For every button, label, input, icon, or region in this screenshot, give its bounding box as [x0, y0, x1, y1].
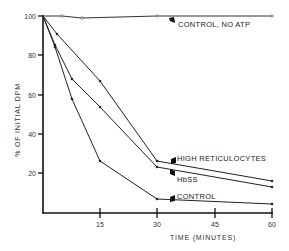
x-axis-label: TIME (MINUTES) — [170, 234, 236, 242]
x-tick-15: 15 — [96, 221, 104, 228]
label-high-reticulocytes: HIGH RETICULOCYTES — [177, 154, 266, 163]
label-hbss: HbSS — [177, 175, 198, 184]
x-ticks: 15 30 45 60 — [96, 208, 276, 228]
chart: 100 80 60 40 20 15 30 45 60 TIME (MINUTE… — [0, 0, 289, 251]
label-control-no-atp: CONTROL, NO ATP — [178, 20, 250, 29]
label-control: CONTROL — [177, 192, 216, 201]
y-tick-40: 40 — [28, 131, 36, 138]
series-high-reticulocytes: HIGH RETICULOCYTES — [43, 16, 273, 182]
x-tick-30: 30 — [153, 221, 161, 228]
series-control: CONTROL — [43, 16, 273, 205]
y-tick-20: 20 — [28, 170, 36, 177]
y-ticks: 100 80 60 40 20 — [24, 13, 43, 177]
y-tick-80: 80 — [28, 52, 36, 59]
label-pointer — [169, 17, 175, 23]
y-tick-100: 100 — [24, 13, 36, 20]
label-pointer — [171, 157, 176, 164]
label-pointer — [170, 195, 175, 202]
series-control-no-atp: CONTROL, NO ATP — [43, 15, 273, 29]
x-tick-45: 45 — [211, 221, 219, 228]
y-tick-60: 60 — [28, 92, 36, 99]
axes — [42, 15, 273, 213]
y-axis-label: % OF INITIAL DPM — [14, 83, 21, 157]
x-tick-60: 60 — [268, 221, 276, 228]
